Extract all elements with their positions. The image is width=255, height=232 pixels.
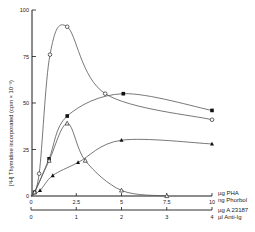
x-secondary-tick-label: 1 (75, 214, 78, 220)
chart: 025507510002.557.510µg PHAng Phorbol0123… (0, 0, 255, 232)
series-open-circle (31, 25, 214, 196)
series-open-triangle (31, 121, 169, 197)
x-primary-tick-label: 5 (120, 199, 123, 205)
y-tick-label: 25 (23, 147, 29, 153)
y-axis-label: [³H] Thymidine incorporated (cpm × 10⁻³) (8, 80, 14, 186)
marker-triangle-open (65, 121, 69, 125)
x-primary-tick-label: 7.5 (163, 199, 171, 205)
marker-triangle-filled (76, 160, 80, 164)
y-tick-label: 100 (20, 7, 29, 13)
marker-square-filled (65, 114, 69, 118)
series-line (31, 25, 212, 196)
x-primary-tick-label: 0 (29, 199, 32, 205)
series-line (31, 94, 212, 197)
marker-square-filled (122, 92, 126, 96)
marker-circle-open (37, 172, 41, 176)
x-secondary-tick-label: 0 (29, 214, 32, 220)
x-primary-unit-label: ng Phorbol (218, 197, 247, 203)
x-secondary-tick-label: 3 (165, 214, 168, 220)
marker-circle-open (65, 25, 69, 29)
x-primary-tick-label: 2.5 (72, 199, 80, 205)
marker-circle-open (103, 92, 107, 96)
x-primary-unit-label: µg PHA (218, 190, 239, 196)
marker-circle-open (48, 53, 52, 57)
series-filled-square (31, 92, 214, 196)
marker-circle-open (210, 118, 214, 122)
x-secondary-tick-label: 4 (210, 214, 213, 220)
axes (31, 10, 212, 210)
y-tick-label: 50 (23, 100, 29, 106)
marker-triangle-filled (51, 173, 55, 177)
y-tick-label: 75 (23, 54, 29, 60)
series-filled-triangle (31, 138, 214, 196)
x-secondary-unit-label: µl Anti-Ig (218, 214, 241, 220)
x-secondary-unit-label: µg A 23187 (218, 207, 249, 213)
x-secondary-tick-label: 2 (120, 214, 123, 220)
marker-square-filled (210, 109, 214, 113)
series-group (31, 25, 214, 198)
series-line (31, 123, 167, 196)
x-primary-tick-label: 10 (209, 199, 215, 205)
